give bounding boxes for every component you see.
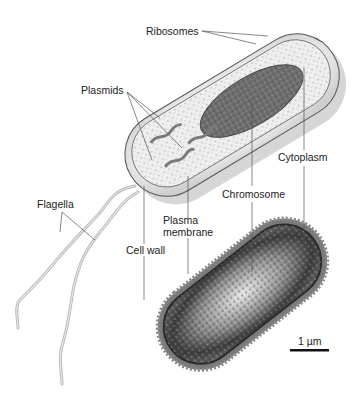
label-flagella: Flagella bbox=[37, 198, 74, 210]
label-plasmids: Plasmids bbox=[81, 84, 124, 96]
scale-bar-label: 1 µm bbox=[298, 335, 322, 347]
label-chromosome: Chromosome bbox=[222, 188, 285, 200]
scale-bar bbox=[290, 349, 329, 352]
label-cell-wall: Cell wall bbox=[126, 244, 165, 256]
label-cytoplasm: Cytoplasm bbox=[278, 151, 328, 163]
label-ribosomes: Ribosomes bbox=[146, 25, 199, 37]
label-plasma-membrane-1: Plasma bbox=[163, 214, 198, 226]
label-plasma-membrane-2: membrane bbox=[163, 226, 213, 238]
